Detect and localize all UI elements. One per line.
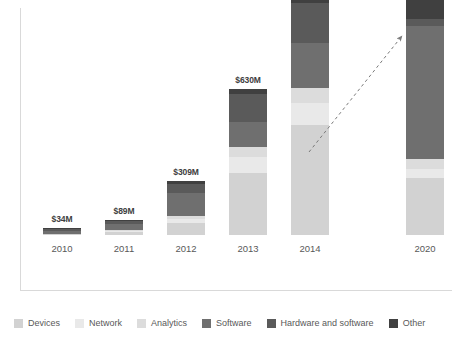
- legend-swatch-icon: [75, 319, 84, 328]
- bar-segment-devices[interactable]: [105, 232, 143, 235]
- bar-value-label-2013: $630M: [217, 75, 279, 85]
- bar-stack: [229, 89, 267, 235]
- legend-item-other[interactable]: Other: [389, 318, 426, 328]
- y-axis-line: [20, 8, 21, 290]
- legend-item-network[interactable]: Network: [75, 318, 122, 328]
- x-axis-label-2011: 2011: [93, 243, 155, 254]
- bar-segment-hardware-and-software[interactable]: [167, 184, 205, 193]
- bar-segment-analytics[interactable]: [406, 159, 444, 169]
- legend-item-analytics[interactable]: Analytics: [137, 318, 187, 328]
- legend-item-software[interactable]: Software: [202, 318, 252, 328]
- bar-segment-devices[interactable]: [291, 125, 329, 235]
- bar-segment-software[interactable]: [291, 43, 329, 88]
- bar-stack: [105, 220, 143, 235]
- bar-segment-other[interactable]: [406, 0, 444, 19]
- x-axis-label-2020: 2020: [394, 243, 456, 254]
- legend-item-hardware-and-software[interactable]: Hardware and software: [267, 318, 374, 328]
- x-axis-label-2013: 2013: [217, 243, 279, 254]
- bar-segment-network[interactable]: [229, 157, 267, 173]
- legend-swatch-icon: [202, 319, 211, 328]
- bar-stack: [167, 181, 205, 235]
- legend-label: Hardware and software: [281, 318, 374, 328]
- legend-label: Analytics: [151, 318, 187, 328]
- x-axis-label-2010: 2010: [31, 243, 93, 254]
- bar-segment-software[interactable]: [167, 193, 205, 216]
- bar-segment-devices[interactable]: [229, 173, 267, 235]
- bar-segment-hardware-and-software[interactable]: [406, 19, 444, 26]
- x-axis-line: [20, 290, 452, 291]
- bar-segment-network[interactable]: [291, 103, 329, 125]
- legend-label: Network: [89, 318, 122, 328]
- legend-swatch-icon: [267, 319, 276, 328]
- legend-label: Other: [403, 318, 426, 328]
- bar-stack: [406, 0, 444, 235]
- bar-segment-hardware-and-software[interactable]: [229, 94, 267, 122]
- bar-segment-analytics[interactable]: [291, 88, 329, 103]
- plot-area: $34M2010$89M2011$309M2012$630M2013$976M2…: [0, 0, 462, 300]
- bar-segment-network[interactable]: [406, 169, 444, 178]
- bar-stack: [291, 0, 329, 235]
- legend-swatch-icon: [389, 319, 398, 328]
- legend-swatch-icon: [137, 319, 146, 328]
- bar-value-label-2010: $34M: [31, 214, 93, 224]
- x-axis-label-2014: 2014: [279, 243, 341, 254]
- legend-swatch-icon: [14, 319, 23, 328]
- legend-item-devices[interactable]: Devices: [14, 318, 60, 328]
- bar-segment-devices[interactable]: [43, 234, 81, 235]
- bar-segment-software[interactable]: [406, 26, 444, 159]
- stacked-bar-chart: $34M2010$89M2011$309M2012$630M2013$976M2…: [0, 0, 462, 355]
- bar-segment-analytics[interactable]: [229, 147, 267, 157]
- x-axis-label-2012: 2012: [155, 243, 217, 254]
- bar-segment-software[interactable]: [229, 122, 267, 147]
- bar-segment-devices[interactable]: [406, 178, 444, 235]
- bar-value-label-2011: $89M: [93, 206, 155, 216]
- chart-legend: DevicesNetworkAnalyticsSoftwareHardware …: [0, 318, 462, 328]
- bar-segment-hardware-and-software[interactable]: [291, 3, 329, 43]
- legend-label: Software: [216, 318, 252, 328]
- legend-label: Devices: [28, 318, 60, 328]
- bar-segment-devices[interactable]: [167, 223, 205, 235]
- bar-stack: [43, 228, 81, 235]
- bar-value-label-2012: $309M: [155, 167, 217, 177]
